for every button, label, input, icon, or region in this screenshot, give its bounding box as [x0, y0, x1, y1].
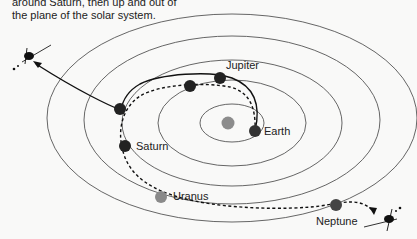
planet-saturn: [119, 140, 131, 152]
label-saturn: Saturn: [136, 140, 168, 152]
spacecraft-icon: [13, 45, 51, 70]
planet-jupiter-2: [184, 80, 196, 92]
label-jupiter: Jupiter: [226, 59, 259, 71]
planet-uranus: [155, 191, 167, 203]
planet-earth: [249, 125, 261, 137]
label-uranus: Uranus: [173, 190, 208, 202]
dashed-arrowhead: [369, 207, 377, 215]
planet-neptune: [330, 199, 342, 211]
diagram-canvas: [0, 0, 417, 239]
planet-jupiter: [214, 72, 226, 84]
label-neptune: Neptune: [316, 215, 358, 227]
spacecraft-icon-2: [364, 207, 401, 231]
sun: [222, 117, 235, 130]
voyager-trajectory-diagram: around Saturn, then up and out of the pl…: [0, 0, 417, 239]
planet-saturn-encounter: [114, 103, 126, 115]
label-earth: Earth: [264, 125, 290, 137]
